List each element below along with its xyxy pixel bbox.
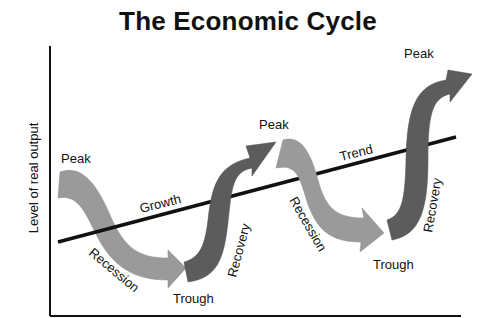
trough-label-1: Trough	[173, 291, 214, 306]
economic-cycle-diagram: Level of real output Peak Peak Peak Trou…	[0, 0, 496, 318]
y-axis-label: Level of real output	[26, 122, 41, 233]
recovery-label-1: Recovery	[224, 221, 253, 278]
peak-label-2: Peak	[259, 117, 289, 132]
trough-label-2: Trough	[373, 257, 414, 272]
peak-label-1: Peak	[61, 151, 91, 166]
peak-label-3: Peak	[404, 46, 434, 61]
